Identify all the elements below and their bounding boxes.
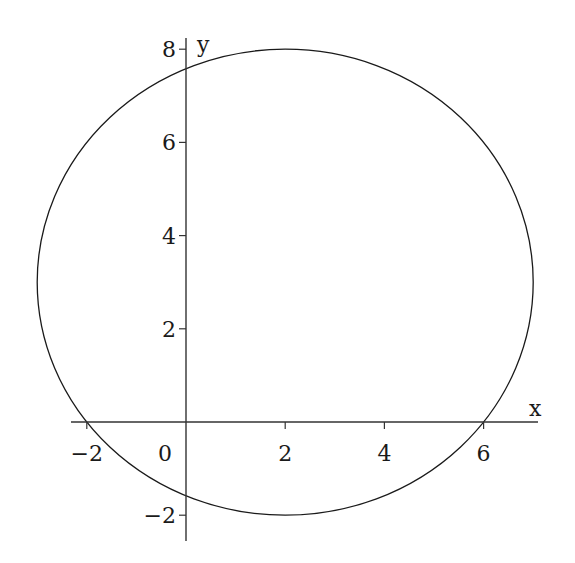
- x-tick-label: −2: [71, 441, 103, 466]
- x-ticks: −2246: [71, 422, 491, 466]
- y-axis-label: y: [196, 32, 210, 57]
- x-tick-label: 4: [377, 441, 391, 466]
- y-tick-label: 2: [162, 317, 176, 342]
- axes: [71, 38, 538, 541]
- x-tick-label: 6: [477, 441, 491, 466]
- circle-plot: −2246 −22468 x y 0: [0, 0, 575, 563]
- y-tick-label: −2: [144, 503, 176, 528]
- y-tick-label: 4: [162, 224, 176, 249]
- origin-label: 0: [158, 441, 172, 466]
- x-axis-label: x: [529, 396, 542, 421]
- y-tick-label: 6: [162, 130, 176, 155]
- x-tick-label: 2: [278, 441, 292, 466]
- y-tick-label: 8: [162, 37, 176, 62]
